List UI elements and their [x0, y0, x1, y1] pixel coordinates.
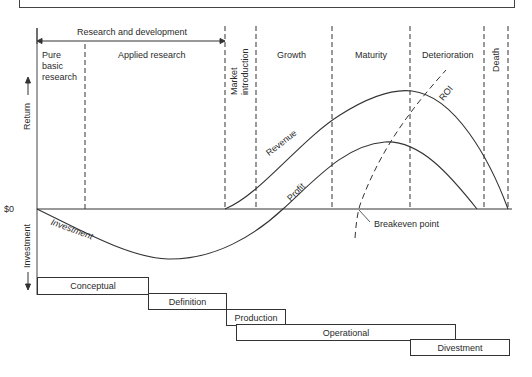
up-arrow-icon	[26, 77, 31, 95]
stage-divestment: Divestment	[410, 339, 510, 356]
investment-profit-curve	[37, 142, 477, 259]
phase-growth: Growth	[277, 50, 306, 60]
breakeven-label: Breakeven point	[374, 219, 439, 229]
breakeven-leader	[359, 210, 370, 222]
roi-curve	[355, 70, 446, 238]
stage-definition: Definition	[148, 293, 227, 310]
phase-market-introduction-line2: introduction	[240, 48, 250, 95]
phase-market-introduction-line1: Market	[229, 67, 239, 95]
zero-label: $0	[4, 204, 14, 214]
investment-axis-label: Investment	[22, 224, 32, 268]
phase-pure-basic-research: Pure basic research	[42, 50, 77, 83]
return-axis-label: Return	[22, 103, 32, 130]
down-arrow-icon	[26, 272, 31, 290]
phase-deterioration: Deterioration	[422, 50, 474, 60]
phase-maturity: Maturity	[355, 50, 387, 60]
phase-death: Death	[491, 48, 501, 72]
rd-label: Research and development	[77, 27, 187, 37]
phase-applied-research: Applied research	[118, 50, 186, 60]
stage-conceptual: Conceptual	[37, 277, 149, 295]
